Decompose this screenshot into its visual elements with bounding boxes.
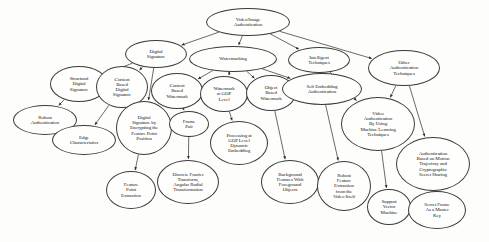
node-label: Video Authentication By Using Machine Le… (358, 111, 397, 137)
node-label: Discrete Fourier Transform, Angular Radi… (170, 172, 205, 193)
node-fpe[interactable]: Feature Point Extraction (106, 171, 156, 209)
node-label: Authentication Based on Motion Trajector… (415, 151, 452, 177)
node-it[interactable]: Intelligent Techniques (288, 47, 350, 73)
node-label: Watermarking (217, 56, 248, 61)
node-bffo[interactable]: Background Features With Foreground Obje… (261, 160, 319, 204)
node-label: Watermark at GOP Level (211, 86, 236, 102)
node-label: Frame Pair (181, 119, 197, 130)
node-label: Support Vector Machine (379, 199, 400, 215)
node-fp[interactable]: Frame Pair (169, 111, 209, 137)
node-wgop[interactable]: Watermark at GOP Level (200, 76, 248, 112)
node-label: Feature Point Extraction (119, 182, 143, 198)
node-label: Structural Digital Signature (68, 76, 91, 92)
node-sfmk[interactable]: Secret Frame As a Master Key (408, 191, 466, 229)
taxonomy-diagram: Video/Image AuthenticationDigital Signat… (0, 0, 489, 242)
node-oat[interactable]: Other Authentication Techniques (368, 50, 440, 86)
node-svm[interactable]: Support Vector Machine (367, 189, 411, 225)
node-vaml[interactable]: Video Authentication By Using Machine Le… (341, 97, 415, 151)
node-label: Secret Frame As a Master Key (422, 202, 451, 218)
node-dsefpp[interactable]: Digital Signature by Encrypting the Feat… (116, 101, 172, 155)
node-dftart[interactable]: Discrete Fourier Transform, Angular Radi… (157, 160, 219, 204)
node-pgde[interactable]: Processing at GOP Level Dynamic Embeddin… (210, 121, 268, 165)
node-label: Intelligent Techniques (306, 55, 332, 66)
node-label: Digital Signature by Encrypting the Feat… (128, 115, 160, 141)
node-label: Content Based Watermark (164, 83, 189, 99)
node-label: Robust Authentication (29, 115, 61, 126)
node-cbw[interactable]: Content Based Watermark (151, 73, 203, 109)
node-label: Edge Characteristics (68, 135, 100, 146)
node-ds[interactable]: Digital Signature (125, 40, 187, 68)
node-label: Digital Signature (145, 49, 167, 60)
node-label: Object Based Watermark (258, 85, 283, 101)
node-label: Other Authentication Techniques (388, 60, 420, 76)
node-label: Content Based Digital Signature (111, 77, 133, 98)
node-sea[interactable]: Self Embedding Authentication (282, 73, 362, 105)
node-label: Self Embedding Authentication (305, 84, 340, 95)
node-ec[interactable]: Edge Characteristics (52, 125, 116, 155)
node-label: Video/Image Authentication (232, 17, 264, 28)
node-label: Background Features With Foreground Obje… (275, 172, 306, 193)
node-layer: Video/Image AuthenticationDigital Signat… (0, 0, 489, 242)
node-ambmtcss[interactable]: Authentication Based on Motion Trajector… (396, 137, 470, 191)
node-label: Robust Feature Extraction from the Video… (331, 173, 357, 199)
node-rfevi[interactable]: Robust Feature Extraction from the Video… (317, 161, 371, 211)
node-wm[interactable]: Watermarking (189, 46, 277, 72)
node-label: Processing at GOP Level Dynamic Embeddin… (224, 133, 253, 154)
node-root[interactable]: Video/Image Authentication (206, 8, 290, 36)
